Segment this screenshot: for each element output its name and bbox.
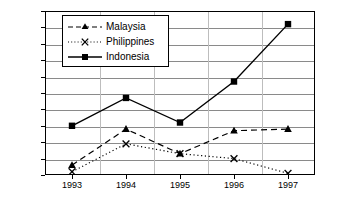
data-point-marker (122, 125, 130, 132)
legend-item-philippines: Philippines (67, 34, 164, 49)
x-axis-tick-mark (234, 175, 235, 179)
series-malaysia (68, 125, 292, 168)
legend-swatch-solid-square-icon (67, 51, 103, 63)
y-axis-tick-mark (41, 175, 45, 176)
data-point-marker (123, 140, 130, 147)
x-axis-tick-mark (180, 175, 181, 179)
data-point-marker (68, 161, 76, 168)
chart-legend: Malaysia Philippines Indonesia (62, 15, 169, 67)
legend-swatch-dashed-triangle-icon (67, 21, 103, 33)
legend-swatch-dotted-x-icon (67, 36, 103, 48)
x-axis-tick-label: 1993 (42, 180, 102, 190)
legend-label-philippines: Philippines (106, 36, 154, 48)
x-axis-tick-mark (72, 175, 73, 179)
legend-item-indonesia: Indonesia (67, 49, 164, 64)
x-axis-tick-label: 1996 (204, 180, 264, 190)
data-point-marker (284, 125, 292, 132)
legend-label-indonesia: Indonesia (106, 51, 149, 63)
x-axis-tick-label: 1994 (96, 180, 156, 190)
line-chart: 90%85%80%75%70%65%60%55%50%45%40% 199319… (0, 0, 342, 209)
data-point-marker (69, 168, 76, 175)
series-line (72, 129, 288, 165)
x-axis-tick-label: 1997 (258, 180, 318, 190)
x-axis-tick-mark (288, 175, 289, 179)
data-point-marker (69, 123, 75, 129)
x-axis-tick-mark (126, 175, 127, 179)
series-line (72, 144, 288, 174)
data-point-marker (123, 95, 129, 101)
data-point-marker (231, 78, 237, 84)
legend-item-malaysia: Malaysia (67, 19, 164, 34)
x-axis-tick-label: 1995 (150, 180, 210, 190)
legend-label-malaysia: Malaysia (106, 21, 145, 33)
data-point-marker (177, 119, 183, 125)
data-point-marker (285, 21, 291, 27)
